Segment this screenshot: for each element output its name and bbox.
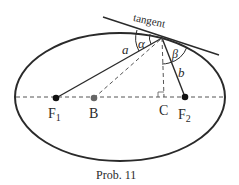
angle-right-arc — [162, 63, 169, 64]
label-f1: F1 — [48, 106, 61, 123]
label-f2: F2 — [178, 107, 191, 124]
tangent-label: tangent — [132, 11, 166, 29]
caption: Prob. 11 — [96, 168, 136, 182]
label-alpha: α — [138, 36, 146, 51]
label-a: a — [122, 42, 129, 57]
perpendicular-line — [162, 38, 164, 97]
point-b — [91, 95, 98, 102]
focus-f1-point — [53, 95, 60, 102]
segment-a — [56, 38, 162, 98]
label-b-point: B — [89, 106, 98, 121]
label-b: b — [178, 65, 185, 80]
label-c: C — [159, 103, 168, 118]
label-beta: β — [171, 47, 178, 61]
ellipse-diagram: tangent a α β b F1 B C F2 Prob. 11 — [0, 0, 239, 185]
right-angle-mark — [158, 92, 164, 97]
focus-f2-point — [182, 94, 189, 101]
